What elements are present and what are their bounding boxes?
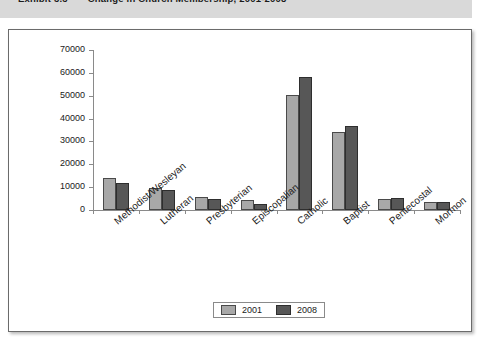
legend-label: 2008 (297, 305, 317, 315)
y-axis-tick-label: 30000 (60, 135, 85, 145)
y-axis-tick-mark (89, 119, 93, 120)
x-axis-tick-mark (277, 210, 278, 214)
y-axis-tick-label: 10000 (60, 181, 85, 191)
legend-swatch (276, 305, 291, 315)
exhibit-caption: Exhibit 3.3Change in Church Membership, … (18, 0, 286, 4)
x-axis-tick-mark (231, 210, 232, 214)
legend-entry: 2008 (276, 305, 317, 315)
exhibit-number: Exhibit 3.3 (18, 0, 68, 4)
y-axis-tick-mark (89, 187, 93, 188)
y-axis-tick-label: 50000 (60, 90, 85, 100)
y-axis-tick-mark (89, 73, 93, 74)
legend-label: 2001 (242, 305, 262, 315)
x-axis-tick-mark (139, 210, 140, 214)
bar (241, 200, 254, 210)
chart-legend: 20012008 (213, 302, 325, 318)
bar (424, 202, 437, 210)
chart-figure: 010000200003000040000500006000070000 Met… (8, 29, 472, 332)
y-axis-tick-mark (89, 50, 93, 51)
x-axis-tick-mark (322, 210, 323, 214)
y-axis-tick-label: 0 (80, 204, 85, 214)
exhibit-caption-band: Exhibit 3.3Change in Church Membership, … (0, 0, 472, 18)
y-axis-tick-mark (89, 96, 93, 97)
y-axis-tick-mark (89, 141, 93, 142)
x-axis-tick-mark (368, 210, 369, 214)
bar-group (332, 50, 358, 210)
x-axis-tick-mark (460, 210, 461, 214)
bar-group (195, 50, 221, 210)
bar (345, 126, 358, 210)
x-axis-tick-mark (185, 210, 186, 214)
x-axis-tick-mark (414, 210, 415, 214)
y-axis-tick-label: 70000 (60, 44, 85, 54)
bar (103, 178, 116, 210)
x-axis-tick-mark (93, 210, 94, 214)
y-axis-tick-mark (89, 164, 93, 165)
legend-swatch (221, 305, 236, 315)
bar (299, 77, 312, 210)
y-axis-tick-label: 60000 (60, 67, 85, 77)
bar-group (103, 50, 129, 210)
legend-entry: 2001 (221, 305, 262, 315)
bar (332, 132, 345, 210)
exhibit-title: Change in Church Membership, 2001-2008 (88, 0, 287, 4)
y-axis-tick-label: 20000 (60, 158, 85, 168)
bar-group (378, 50, 404, 210)
y-axis-tick-label: 40000 (60, 113, 85, 123)
bar (195, 197, 208, 210)
bar (378, 199, 391, 210)
